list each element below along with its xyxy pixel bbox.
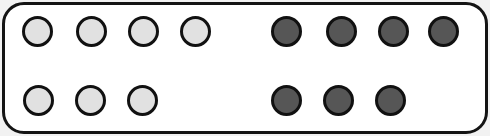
token-row1-light-4[interactable] bbox=[180, 16, 211, 47]
token-row2-light-1[interactable] bbox=[23, 85, 54, 116]
token-row1-dark-1[interactable] bbox=[271, 16, 302, 47]
token-row1-light-2[interactable] bbox=[76, 16, 107, 47]
token-row2-dark-3[interactable] bbox=[375, 85, 406, 116]
token-row1-dark-3[interactable] bbox=[378, 16, 409, 47]
token-row1-dark-2[interactable] bbox=[326, 16, 357, 47]
token-row1-light-1[interactable] bbox=[22, 16, 53, 47]
token-row2-dark-2[interactable] bbox=[323, 85, 354, 116]
token-row2-dark-1[interactable] bbox=[271, 85, 302, 116]
token-row1-dark-4[interactable] bbox=[428, 16, 459, 47]
token-row2-light-3[interactable] bbox=[127, 85, 158, 116]
token-panel-canvas bbox=[0, 0, 490, 136]
token-layer bbox=[0, 0, 490, 136]
token-row1-light-3[interactable] bbox=[128, 16, 159, 47]
token-row2-light-2[interactable] bbox=[75, 85, 106, 116]
